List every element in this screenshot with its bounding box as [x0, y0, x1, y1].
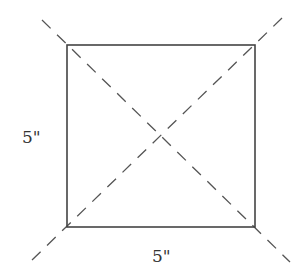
- diagonal-line-tl-br: [42, 20, 290, 262]
- left-side-label: 5": [22, 127, 41, 147]
- diagonal-line-tr-bl: [32, 18, 282, 260]
- bottom-side-label: 5": [152, 246, 171, 266]
- square-diagram: 5" 5": [0, 0, 307, 277]
- diagram-canvas: 5" 5": [0, 0, 307, 277]
